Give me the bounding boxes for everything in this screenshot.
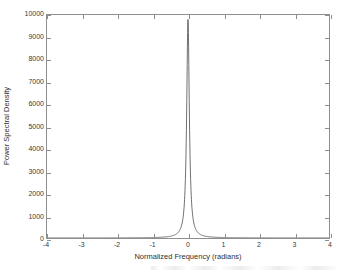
y-axis-tick [47, 38, 51, 39]
y-axis-tick [47, 15, 51, 16]
x-axis-tick-label: 1 [222, 241, 226, 249]
y-axis-tick-label: 6000 [28, 100, 44, 108]
scan-artifact [0, 266, 339, 270]
x-axis-tick [118, 234, 119, 238]
y-axis-tick [325, 83, 329, 84]
x-axis-tick [260, 234, 261, 238]
x-axis-tick-label: -1 [149, 241, 155, 249]
x-axis-title: Normalized Frequency (radians) [46, 252, 330, 261]
x-axis-tick [225, 15, 226, 19]
y-axis-tick [325, 218, 329, 219]
x-axis-tick [225, 234, 226, 238]
y-axis-tick [325, 60, 329, 61]
x-axis-tick [83, 15, 84, 19]
y-axis-tick [325, 38, 329, 39]
x-axis-tick [154, 234, 155, 238]
y-axis-tick [325, 173, 329, 174]
y-axis-tick [325, 150, 329, 151]
y-axis-tick-label: 8000 [28, 55, 44, 63]
y-axis-tick [47, 128, 51, 129]
y-axis-tick-label: 2000 [28, 190, 44, 198]
x-axis-tick [189, 15, 190, 19]
y-axis-tick [47, 173, 51, 174]
y-axis-tick-label: 9000 [28, 33, 44, 41]
x-axis-tick [118, 15, 119, 19]
y-axis-tick [47, 60, 51, 61]
x-axis-tick-label: 4 [328, 241, 332, 249]
x-axis-tick [83, 234, 84, 238]
psd-figure: -4-3-2-101234 01000200030004000500060007… [0, 0, 339, 272]
x-axis-tick-label: 3 [293, 241, 297, 249]
psd-curve [47, 15, 329, 238]
y-axis-tick-label: 3000 [28, 168, 44, 176]
y-axis-tick [325, 15, 329, 16]
y-axis-tick [47, 105, 51, 106]
x-axis-tick-label: 0 [186, 241, 190, 249]
x-axis-tick [189, 234, 190, 238]
y-axis-title: Power Spectral Density [2, 87, 11, 165]
x-axis-tick [296, 15, 297, 19]
y-axis-tick [325, 195, 329, 196]
y-axis-tick-label: 5000 [28, 123, 44, 131]
y-axis-tick-label: 10000 [25, 10, 44, 18]
x-axis-tick-label: -3 [78, 241, 84, 249]
y-axis-tick [47, 150, 51, 151]
y-axis-tick [47, 83, 51, 84]
y-axis-tick-label: 0 [40, 235, 44, 243]
y-axis-tick-label: 7000 [28, 78, 44, 86]
x-axis-tick [296, 234, 297, 238]
y-axis-tick [47, 218, 51, 219]
x-axis-tick-label: -2 [114, 241, 120, 249]
x-axis-tick-label: 2 [257, 241, 261, 249]
x-axis-tick [331, 234, 332, 238]
x-axis-tick [331, 15, 332, 19]
x-axis-tick [260, 15, 261, 19]
plot-area [46, 14, 330, 239]
x-axis-tick [154, 15, 155, 19]
y-axis-tick [325, 128, 329, 129]
psd-line [47, 19, 329, 238]
y-axis-tick [47, 195, 51, 196]
y-axis-tick-label: 4000 [28, 145, 44, 153]
y-axis-tick [325, 105, 329, 106]
x-axis-tick [47, 234, 48, 238]
y-axis-tick-label: 1000 [28, 213, 44, 221]
